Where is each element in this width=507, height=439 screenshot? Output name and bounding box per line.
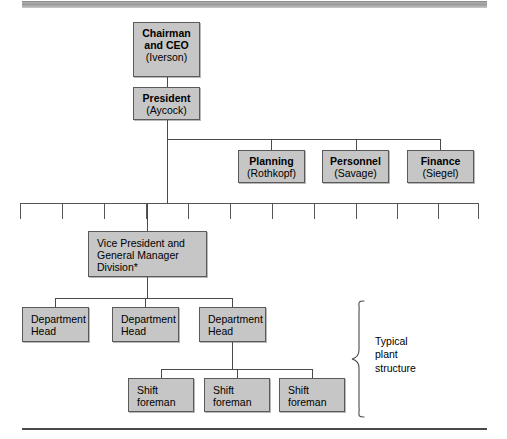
personnel-name: (Savage) xyxy=(323,168,388,180)
shift-foreman-3-line2: foreman xyxy=(288,397,344,409)
node-personnel[interactable]: Personnel (Savage) xyxy=(322,150,389,183)
shift-foreman-1-line2: foreman xyxy=(137,397,193,409)
node-department-head-2[interactable]: Department Head xyxy=(112,307,179,342)
org-chart-canvas: Chairman and CEO (Iverson) President (Ay… xyxy=(0,0,507,439)
shift-foreman-1-line1: Shift xyxy=(137,385,193,397)
vp-line1: Vice President and xyxy=(97,238,206,250)
dept-head-3-line1: Department xyxy=(208,314,265,326)
connector-staff-stub-3 xyxy=(440,139,441,150)
division-stub-7 xyxy=(272,203,273,219)
vp-line2: General Manager xyxy=(97,250,206,262)
connector-dept-stub-3 xyxy=(232,298,233,307)
node-shift-foreman-3[interactable]: Shift foreman xyxy=(279,378,345,412)
division-stub-10 xyxy=(397,203,398,219)
dept-head-1-line2: Head xyxy=(31,326,88,338)
chairman-title-line1: Chairman xyxy=(134,28,199,40)
connector-staff-stub-2 xyxy=(356,139,357,150)
division-stub-3 xyxy=(104,203,105,219)
division-stub-1 xyxy=(20,203,21,219)
vp-line3: Division* xyxy=(97,262,206,274)
division-bar-horizontal xyxy=(20,203,479,204)
dept-head-1-line1: Department xyxy=(31,314,88,326)
chairman-name: (Iverson) xyxy=(134,52,199,64)
grouping-brace xyxy=(350,300,374,418)
connector-dept-stub-1 xyxy=(55,298,56,307)
typical-plant-structure-label: Typical plant structure xyxy=(375,335,416,375)
connector-dept-stub-2 xyxy=(145,298,146,307)
dept-head-2-line1: Department xyxy=(121,314,178,326)
connector-shift-stub-2 xyxy=(237,369,238,378)
shift-foreman-2-line1: Shift xyxy=(213,385,269,397)
division-stub-9 xyxy=(356,203,357,219)
dept-head-3-line2: Head xyxy=(208,326,265,338)
node-planning[interactable]: Planning (Rothkopf) xyxy=(238,150,305,183)
top-rule xyxy=(22,1,487,8)
dept-head-2-line2: Head xyxy=(121,326,178,338)
planning-name: (Rothkopf) xyxy=(239,168,304,180)
connector-vp-down xyxy=(147,277,148,298)
president-title: President xyxy=(134,93,199,105)
division-stub-11 xyxy=(438,203,439,219)
connector-shift-stub-3 xyxy=(312,369,313,378)
node-vice-president[interactable]: Vice President and General Manager Divis… xyxy=(88,231,207,277)
node-department-head-1[interactable]: Department Head xyxy=(22,307,89,342)
connector-shift-stub-1 xyxy=(161,369,162,378)
node-shift-foreman-2[interactable]: Shift foreman xyxy=(204,378,270,412)
shift-foreman-3-line1: Shift xyxy=(288,385,344,397)
finance-name: (Siegel) xyxy=(408,168,473,180)
node-department-head-3[interactable]: Department Head xyxy=(199,307,266,342)
connector-staff-horizontal xyxy=(167,139,441,140)
planning-title: Planning xyxy=(239,156,304,168)
node-finance[interactable]: Finance (Siegel) xyxy=(407,150,474,183)
division-stub-6 xyxy=(230,203,231,219)
personnel-title: Personnel xyxy=(323,156,388,168)
shift-foreman-2-line2: foreman xyxy=(213,397,269,409)
connector-dept3-down xyxy=(232,342,233,369)
connector-chairman-president xyxy=(167,77,168,87)
division-stub-2 xyxy=(62,203,63,219)
connector-bar-to-vp xyxy=(147,203,148,231)
node-president[interactable]: President (Aycock) xyxy=(133,87,200,120)
bottom-rule xyxy=(22,428,487,430)
president-name: (Aycock) xyxy=(134,105,199,117)
node-chairman-ceo[interactable]: Chairman and CEO (Iverson) xyxy=(133,22,200,77)
division-stub-8 xyxy=(314,203,315,219)
connector-dept-horizontal xyxy=(55,298,233,299)
division-stub-5 xyxy=(188,203,189,219)
connector-staff-stub-1 xyxy=(271,139,272,150)
node-shift-foreman-1[interactable]: Shift foreman xyxy=(128,378,194,412)
chairman-title-line2: and CEO xyxy=(134,40,199,52)
division-stub-12 xyxy=(478,203,479,219)
connector-president-trunk xyxy=(167,120,168,203)
finance-title: Finance xyxy=(408,156,473,168)
